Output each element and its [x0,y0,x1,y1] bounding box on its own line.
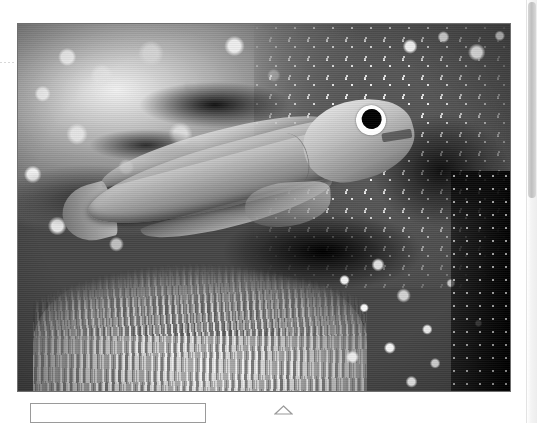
caption-input[interactable] [30,403,206,423]
triangle-up-icon[interactable] [274,405,293,415]
scrollbar-thumb[interactable] [528,2,536,198]
page-canvas [0,0,537,423]
underwater-photo [18,24,510,391]
left-margin-guide [0,62,16,63]
right-rock-layer [451,171,510,391]
photo-frame[interactable] [17,23,511,392]
vertical-scrollbar[interactable] [526,0,537,423]
